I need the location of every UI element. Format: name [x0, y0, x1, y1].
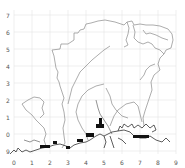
map-figure: 0123456789 765432109 — [0, 0, 185, 168]
highlight-segment — [66, 146, 70, 149]
internal-boundary — [52, 50, 65, 148]
x-tick-label: 6 — [120, 159, 124, 166]
x-tick-label: 7 — [138, 159, 142, 166]
y-tick-label: 1 — [6, 114, 10, 121]
highlight-segment — [99, 118, 102, 124]
x-tick-label: 2 — [48, 159, 52, 166]
grid-lines — [14, 10, 176, 154]
y-tick-label: 0 — [6, 131, 10, 138]
x-tick-label: 5 — [102, 159, 106, 166]
x-axis-ticks: 0123456789 — [12, 159, 178, 166]
y-tick-label: 5 — [6, 46, 10, 53]
internal-boundary — [106, 88, 128, 118]
internal-boundary — [143, 30, 168, 40]
internal-boundary — [110, 102, 142, 126]
internal-boundary — [124, 22, 129, 47]
x-tick-label: 3 — [66, 159, 70, 166]
highlight-segment — [77, 139, 83, 142]
highlight-segment — [53, 141, 57, 144]
internal-boundary — [133, 25, 164, 54]
region-boundary — [52, 20, 173, 126]
x-tick-label: 4 — [84, 159, 88, 166]
y-axis-ticks: 765432109 — [6, 12, 10, 155]
y-tick-label: 7 — [6, 12, 10, 19]
x-tick-label: 8 — [156, 159, 160, 166]
y-tick-label: 6 — [6, 29, 10, 36]
coastline-estuary — [104, 136, 126, 148]
highlight-segment — [96, 124, 104, 128]
highlight-segment — [40, 145, 50, 148]
y-tick-label: 3 — [6, 80, 10, 87]
x-tick-label: 0 — [12, 159, 16, 166]
y-tick-label: 2 — [6, 97, 10, 104]
x-tick-label: 1 — [30, 159, 34, 166]
y-tick-label: 4 — [6, 63, 10, 70]
x-tick-label: 9 — [174, 159, 178, 166]
coastline-inlet — [118, 124, 156, 132]
highlight-segment — [86, 133, 94, 137]
internal-boundary — [76, 84, 104, 140]
highlight-segment — [133, 135, 149, 138]
y-tick-label: 9 — [6, 148, 10, 155]
